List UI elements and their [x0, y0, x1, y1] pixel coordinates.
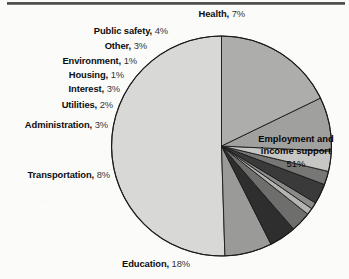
slice-label-transportation-category: Transportation,: [27, 169, 94, 180]
slice-label-health-category: Health,: [199, 8, 230, 19]
slice-label-environment-category: Environment,: [62, 55, 121, 66]
slice-label-interest-category: Interest,: [69, 83, 105, 94]
slice-label-employment-percent: 51%: [244, 158, 348, 170]
slice-label-public-safety-percent: 4%: [155, 25, 168, 36]
slice-label-other-percent: 3%: [134, 40, 147, 51]
slice-label-public-safety: Public safety, 4%: [94, 25, 168, 36]
slice-label-utilities: Utilities, 2%: [62, 99, 113, 110]
slice-label-public-safety-category: Public safety,: [94, 25, 152, 36]
slice-label-administration-category: Administration,: [25, 119, 92, 130]
slice-label-housing-percent: 1%: [111, 69, 124, 80]
pie-chart: Health, 7% Public safety, 4% Other, 3% E…: [0, 0, 349, 279]
slice-label-employment-line1: Employment and: [244, 133, 348, 145]
slice-label-housing: Housing, 1%: [69, 69, 124, 80]
slice-label-housing-category: Housing,: [69, 69, 108, 80]
slice-label-employment-income-support: Employment and income support 51%: [244, 133, 348, 170]
slice-label-interest-percent: 3%: [107, 83, 120, 94]
slice-label-health-percent: 7%: [232, 8, 245, 19]
slice-label-transportation-percent: 8%: [97, 169, 110, 180]
slice-label-education: Education, 18%: [122, 258, 190, 269]
pie-slice-employment-and-income-support: [112, 36, 225, 256]
slice-label-environment: Environment, 1%: [62, 55, 137, 66]
slice-label-education-percent: 18%: [172, 258, 190, 269]
slice-label-interest: Interest, 3%: [69, 83, 120, 94]
slice-label-administration: Administration, 3%: [25, 119, 108, 130]
slice-label-employment-line2: income support: [244, 145, 348, 157]
slice-label-education-category: Education,: [122, 258, 169, 269]
slice-label-environment-percent: 1%: [124, 55, 137, 66]
slice-label-other: Other, 3%: [105, 40, 147, 51]
slice-label-transportation: Transportation, 8%: [27, 169, 110, 180]
slice-label-utilities-category: Utilities,: [62, 99, 97, 110]
slice-label-health: Health, 7%: [199, 8, 245, 19]
slice-label-other-category: Other,: [105, 40, 132, 51]
slice-label-utilities-percent: 2%: [100, 99, 113, 110]
slice-label-administration-percent: 3%: [95, 119, 108, 130]
